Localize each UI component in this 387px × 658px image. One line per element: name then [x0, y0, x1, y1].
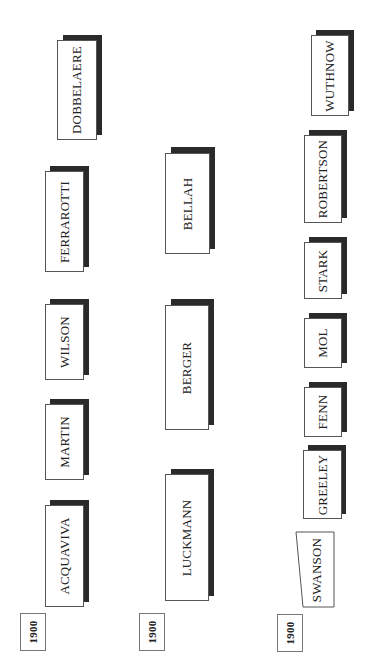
- name-card: FERRAROTTI: [45, 171, 84, 272]
- name-card: BELLAH: [165, 153, 210, 254]
- name-label: BERGER: [179, 341, 195, 393]
- name-card: WILSON: [45, 304, 84, 380]
- name-card: LUCKMANN: [165, 474, 209, 601]
- name-label: LUCKMANN: [179, 499, 195, 576]
- year-text: 1900: [284, 622, 296, 645]
- node-swanson: SWANSON: [295, 531, 336, 609]
- name-label: WUTHNOW: [322, 40, 338, 111]
- year-label-col1: 1900: [20, 613, 46, 651]
- name-card: MARTIN: [45, 404, 84, 480]
- year-label-col2: 1900: [139, 613, 165, 651]
- name-label: ROBERTSON: [315, 140, 331, 218]
- year-text: 1900: [146, 621, 158, 644]
- year-label-col3: 1900: [277, 614, 303, 652]
- name-label: WILSON: [57, 316, 73, 368]
- name-label: GREELEY: [315, 454, 331, 515]
- name-label: STARK: [315, 249, 331, 292]
- name-card: ACQUAVIVA: [45, 505, 84, 607]
- name-card: BERGER: [165, 305, 209, 430]
- name-card: ROBERTSON: [304, 135, 342, 223]
- name-label: FERRAROTTI: [57, 180, 73, 262]
- year-text: 1900: [27, 621, 39, 644]
- name-label: BELLAH: [180, 177, 196, 229]
- name-label: ACQUAVIVA: [57, 517, 73, 594]
- name-label: MARTIN: [57, 416, 73, 468]
- name-card: MOL: [304, 318, 342, 368]
- name-card: STARK: [304, 242, 342, 299]
- name-label: FENN: [315, 395, 331, 430]
- name-label: SWANSON: [309, 538, 325, 602]
- name-card: DOBBELAERE: [57, 40, 97, 140]
- name-card: WUTHNOW: [311, 35, 349, 116]
- name-label: DOBBELAERE: [69, 46, 85, 134]
- name-card: FENN: [304, 387, 342, 437]
- name-label: MOL: [315, 328, 331, 358]
- name-card: GREELEY: [303, 450, 342, 519]
